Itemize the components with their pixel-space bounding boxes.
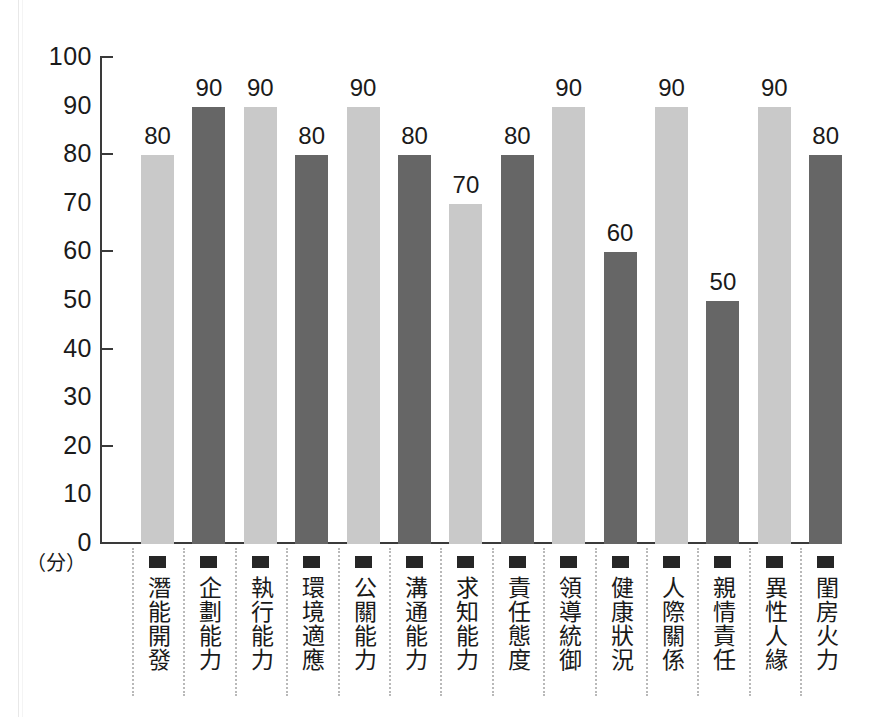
- square-bullet-icon: [200, 556, 217, 568]
- bar-value-label: 80: [489, 124, 546, 148]
- square-bullet-icon: [355, 556, 372, 568]
- category-separator: [132, 548, 134, 696]
- y-axis-unit-label: （分）: [26, 552, 86, 574]
- category-label-text: 求知能力: [453, 576, 478, 672]
- y-axis-label-100: 100: [18, 44, 92, 69]
- bar: [295, 155, 328, 544]
- category-label-14: 閨房火力: [803, 556, 848, 672]
- bar: [347, 107, 380, 544]
- square-bullet-icon: [817, 556, 834, 568]
- category-label-text: 執行能力: [248, 576, 273, 672]
- square-bullet-icon: [303, 556, 320, 568]
- y-axis-tick-80: [100, 153, 113, 155]
- category-label-9: 領導統御: [546, 556, 591, 672]
- category-separator: [492, 548, 494, 696]
- square-bullet-icon: [766, 556, 783, 568]
- category-label-11: 人際關係: [649, 556, 694, 672]
- square-bullet-icon: [509, 556, 526, 568]
- bar-value-label: 90: [643, 76, 700, 100]
- category-label-text: 人際關係: [659, 576, 684, 672]
- category-separator: [286, 548, 288, 696]
- bar-chart: 1009080706050403020100 （分） 8090908090807…: [0, 0, 875, 717]
- bar: [449, 204, 482, 544]
- category-separator: [595, 548, 597, 696]
- bar: [398, 155, 431, 544]
- y-axis-label-text: 30: [30, 384, 92, 409]
- bar-value-label: 90: [540, 76, 597, 100]
- y-axis-label-60: 60: [18, 238, 92, 263]
- bar-value-label: 90: [746, 76, 803, 100]
- y-axis-tick-40: [100, 348, 113, 350]
- category-separator: [646, 548, 648, 696]
- category-label-12: 親情責任: [700, 556, 745, 672]
- y-axis-line: [100, 56, 102, 544]
- category-label-text: 異性人緣: [762, 576, 787, 672]
- bar: [552, 107, 585, 544]
- category-label-text: 環境適應: [299, 576, 324, 672]
- y-axis-label-text: 70: [30, 190, 92, 215]
- bar: [501, 155, 534, 544]
- bar: [809, 155, 842, 544]
- y-axis-label-90: 90: [18, 93, 92, 118]
- y-axis-label-text: 50: [30, 287, 92, 312]
- y-axis-tick-20: [100, 445, 113, 447]
- category-label-2: 企劃能力: [186, 556, 231, 672]
- category-label-text: 閨房火力: [813, 576, 838, 672]
- category-label-6: 溝通能力: [392, 556, 437, 672]
- category-label-text: 企劃能力: [196, 576, 221, 672]
- bar-value-label: 80: [129, 124, 186, 148]
- category-label-7: 求知能力: [443, 556, 488, 672]
- y-axis-label-text: 10: [30, 481, 92, 506]
- category-separator: [183, 548, 185, 696]
- y-axis-label-text: 100: [30, 44, 92, 69]
- bar-value-label: 80: [283, 124, 340, 148]
- bar-value-label: 90: [335, 76, 392, 100]
- category-label-4: 環境適應: [289, 556, 334, 672]
- category-separator: [338, 548, 340, 696]
- category-separator: [697, 548, 699, 696]
- category-label-1: 潛能開發: [135, 556, 180, 672]
- square-bullet-icon: [252, 556, 269, 568]
- category-separator: [389, 548, 391, 696]
- category-label-10: 健康狀況: [598, 556, 643, 672]
- square-bullet-icon: [612, 556, 629, 568]
- bar: [244, 107, 277, 544]
- bar: [141, 155, 174, 544]
- y-axis-label-text: 20: [30, 433, 92, 458]
- category-label-text: 健康狀況: [608, 576, 633, 672]
- bar-value-label: 90: [232, 76, 289, 100]
- y-axis-label-text: 90: [30, 93, 92, 118]
- bar-value-label: 70: [437, 173, 494, 197]
- category-label-3: 執行能力: [238, 556, 283, 672]
- y-axis-label-30: 30: [18, 384, 92, 409]
- y-axis-label-50: 50: [18, 287, 92, 312]
- y-axis-label-40: 40: [18, 336, 92, 361]
- category-separator: [235, 548, 237, 696]
- category-label-text: 潛能開發: [145, 576, 170, 672]
- bar-value-label: 50: [694, 270, 751, 294]
- category-label-text: 領導統御: [556, 576, 581, 672]
- category-separator: [800, 548, 802, 696]
- bar: [604, 252, 637, 544]
- category-label-text: 溝通能力: [402, 576, 427, 672]
- square-bullet-icon: [714, 556, 731, 568]
- bar: [706, 301, 739, 544]
- y-axis-label-text: 60: [30, 238, 92, 263]
- category-label-8: 責任態度: [495, 556, 540, 672]
- bar-value-label: 80: [386, 124, 443, 148]
- category-label-text: 公關能力: [351, 576, 376, 672]
- y-axis-tick-100: [100, 56, 113, 58]
- y-axis-label-70: 70: [18, 190, 92, 215]
- y-axis-label-20: 20: [18, 433, 92, 458]
- y-axis-label-text: 40: [30, 336, 92, 361]
- category-label-5: 公關能力: [341, 556, 386, 672]
- square-bullet-icon: [406, 556, 423, 568]
- bar-value-label: 60: [592, 221, 649, 245]
- category-separator: [749, 548, 751, 696]
- category-label-13: 異性人緣: [752, 556, 797, 672]
- y-axis-label-80: 80: [18, 141, 92, 166]
- square-bullet-icon: [560, 556, 577, 568]
- bar: [758, 107, 791, 544]
- bar: [192, 107, 225, 544]
- y-axis-label-text: 80: [30, 141, 92, 166]
